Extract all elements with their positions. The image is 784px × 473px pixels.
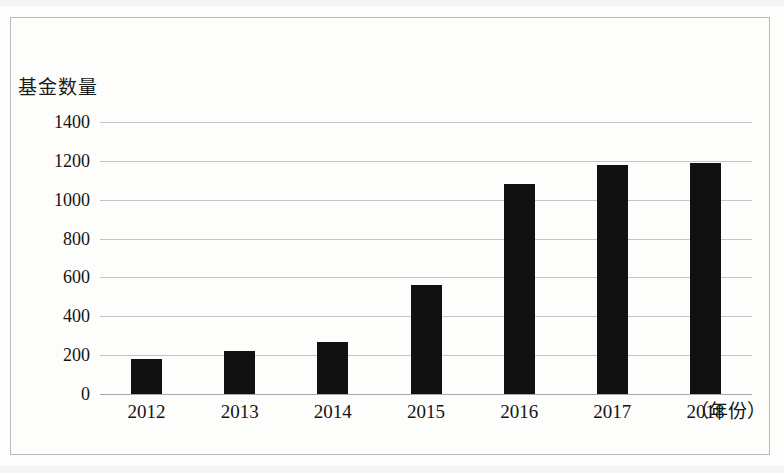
y-axis-tick-label: 800 (20, 230, 90, 248)
y-axis-tick-label: 600 (20, 268, 90, 286)
bar-2012 (131, 359, 162, 394)
bar-2018 (690, 163, 721, 394)
bar-2014 (317, 342, 348, 394)
y-axis-title: 基金数量 (18, 72, 98, 99)
bar-2015 (411, 285, 442, 394)
gridline-1400 (100, 122, 752, 123)
gridline-1200 (100, 161, 752, 162)
x-axis-tick-label: 2013 (200, 402, 280, 422)
gridline-1000 (100, 200, 752, 201)
y-axis-tick-label: 400 (20, 307, 90, 325)
x-axis-tick-label: 2015 (386, 402, 466, 422)
x-axis-tick-label: 2018 (665, 402, 745, 422)
bar-2013 (224, 351, 255, 394)
x-axis-tick-label: 2016 (479, 402, 559, 422)
gridline-600 (100, 277, 752, 278)
x-axis-tick-label: 2014 (293, 402, 373, 422)
bar-chart: 基金数量 1400120010008006004002000 （年份） 2012… (0, 0, 784, 473)
y-axis-tick-label: 0 (20, 385, 90, 403)
y-axis-tick-label: 200 (20, 346, 90, 364)
scanned-page: 基金数量 1400120010008006004002000 （年份） 2012… (0, 0, 784, 473)
plot-area: 1400120010008006004002000 (100, 122, 752, 394)
x-axis-tick-label: 2017 (572, 402, 652, 422)
y-axis-tick-label: 1400 (20, 113, 90, 131)
gridline-0 (100, 394, 752, 395)
gridline-800 (100, 239, 752, 240)
y-axis-tick-label: 1000 (20, 191, 90, 209)
bar-2017 (597, 165, 628, 394)
x-axis-tick-label: 2012 (107, 402, 187, 422)
y-axis-tick-label: 1200 (20, 152, 90, 170)
bar-2016 (504, 184, 535, 394)
